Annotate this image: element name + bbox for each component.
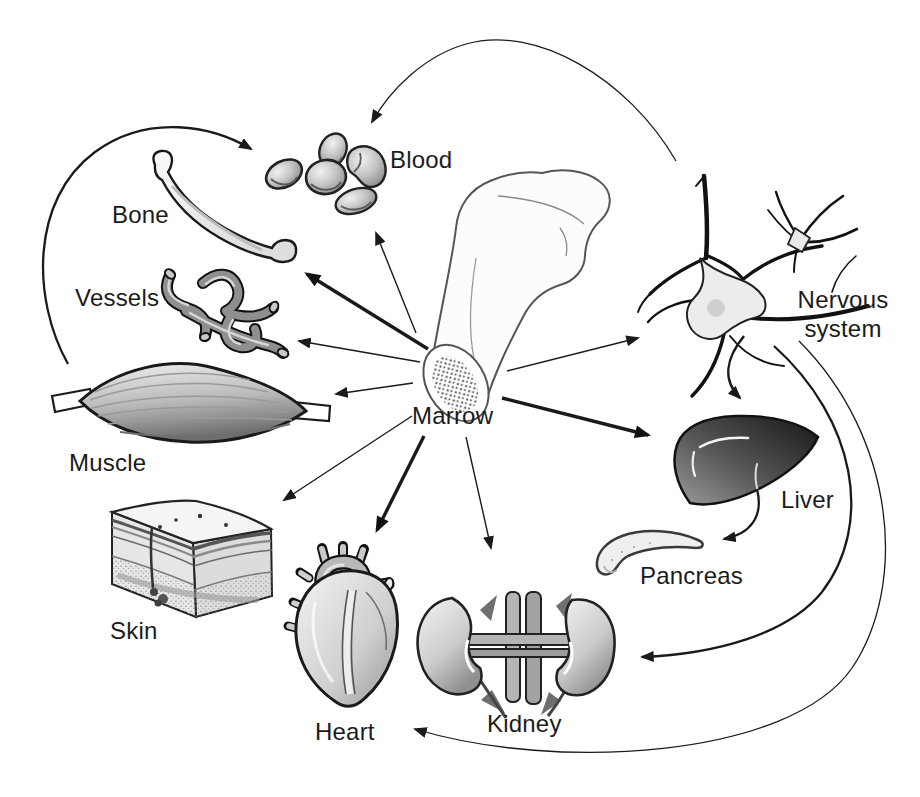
diagram-canvas bbox=[0, 0, 920, 797]
heart-illustration bbox=[288, 546, 398, 706]
marrow-plasticity-diagram: Blood Bone Vessels Muscle Skin Marrow He… bbox=[0, 0, 920, 797]
arrow-nervous-to-liver bbox=[728, 336, 744, 398]
skin-illustration bbox=[112, 501, 272, 617]
arrow-marrow-to-muscle bbox=[336, 383, 413, 394]
label-skin: Skin bbox=[110, 617, 158, 645]
arrow-marrow-to-skin bbox=[284, 416, 412, 500]
label-pancreas: Pancreas bbox=[640, 562, 743, 590]
arrow-marrow-to-heart bbox=[377, 436, 424, 530]
blood-cells-illustration bbox=[261, 129, 386, 219]
arrow-marrow-to-nervous bbox=[507, 338, 638, 371]
arrow-marrow-to-bone bbox=[307, 274, 428, 349]
arrow-marrow-to-vessels bbox=[299, 341, 420, 362]
label-marrow: Marrow bbox=[412, 402, 493, 430]
label-nervous-system: Nervous system bbox=[783, 285, 903, 344]
arrow-nervous-to-blood bbox=[372, 40, 676, 161]
muscle-illustration bbox=[52, 364, 330, 442]
label-heart: Heart bbox=[315, 718, 375, 746]
label-nervous-line1: Nervous bbox=[798, 286, 889, 313]
label-liver: Liver bbox=[781, 486, 834, 514]
arrow-marrow-to-liver bbox=[502, 398, 648, 435]
kidney-illustration bbox=[418, 592, 615, 718]
label-vessels: Vessels bbox=[75, 284, 159, 312]
arrow-marrow-to-blood bbox=[376, 233, 416, 333]
label-blood: Blood bbox=[390, 146, 452, 174]
label-kidney: Kidney bbox=[487, 710, 562, 738]
label-muscle: Muscle bbox=[69, 449, 146, 477]
arrow-marrow-to-kidney bbox=[466, 437, 491, 548]
marrow-bone-illustration bbox=[410, 170, 610, 433]
label-bone: Bone bbox=[112, 201, 169, 229]
vessels-illustration bbox=[163, 267, 289, 359]
label-nervous-line2: system bbox=[804, 315, 881, 342]
